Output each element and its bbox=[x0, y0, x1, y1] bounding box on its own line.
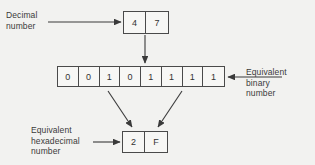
hexadecimal-label: Equivalent hexadecimal number bbox=[31, 125, 80, 157]
binary-digit-cell: 0 bbox=[58, 67, 79, 86]
hexadecimal-value-box: 2 F bbox=[122, 131, 168, 153]
decimal-label: Decimal number bbox=[6, 10, 37, 31]
arrow-binary-high-nibble-to-hex bbox=[108, 91, 132, 127]
decimal-digit-cell: 7 bbox=[146, 12, 168, 33]
arrow-binary-low-nibble-to-hex bbox=[158, 91, 182, 127]
binary-digit-cell: 1 bbox=[100, 67, 121, 86]
binary-digit-cell: 1 bbox=[162, 67, 183, 86]
binary-digit-cell: 0 bbox=[79, 67, 100, 86]
binary-label: Equivalent binary number bbox=[246, 67, 287, 99]
decimal-digit-cell: 4 bbox=[124, 12, 146, 33]
hexadecimal-digit-cell: F bbox=[145, 132, 167, 152]
binary-digit-cell: 1 bbox=[183, 67, 204, 86]
binary-value-box: 0 0 1 0 1 1 1 1 bbox=[57, 66, 225, 87]
binary-digit-cell: 0 bbox=[120, 67, 141, 86]
binary-digit-cell: 1 bbox=[203, 67, 224, 86]
decimal-value-box: 4 7 bbox=[123, 11, 169, 34]
binary-digit-cell: 1 bbox=[141, 67, 162, 86]
hexadecimal-digit-cell: 2 bbox=[123, 132, 145, 152]
conversion-diagram: Decimal number Equivalent binary number … bbox=[0, 0, 315, 165]
